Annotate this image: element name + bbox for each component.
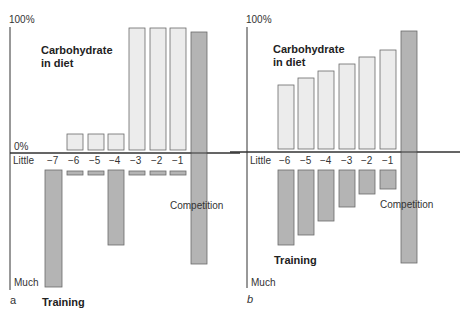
tick: −4 [320,155,332,166]
panel-a-carb-label-1: Carbohydrate [41,44,113,56]
carb-bar [170,28,186,150]
panel-b-letter: b [247,293,253,305]
carb-bar [88,134,104,150]
carb-bar [318,71,334,149]
training-bar [359,170,375,194]
panel-b-training-bars [278,170,396,245]
carb-bar [359,57,375,149]
tick: −2 [151,155,163,166]
panel-a-competition-label: Competition [170,200,223,211]
panel-a-letter: a [10,294,17,306]
training-bar [150,171,166,175]
carb-bar [339,64,355,149]
panel-b-carb-label-1: Carbohydrate [273,43,345,55]
training-bar [339,170,355,207]
carb-bar [298,78,314,149]
training-bar [278,170,294,245]
panel-a-label-100: 100% [9,14,35,25]
panel-b-label-100: 100% [246,14,272,25]
panel-a-label-much: Much [14,277,38,288]
tick: −5 [300,155,312,166]
panel-a-ticks: −7 −6 −5 −4 −3 −2 −1 [47,155,184,166]
panel-a: 100% 0% Little Much a Carbohydrate in di… [9,14,240,308]
training-bar [88,171,104,175]
panel-b-training-label: Training [274,254,317,266]
tick: −3 [341,155,353,166]
tick: −6 [68,155,80,166]
carb-bar [278,85,294,149]
carb-bar [129,28,145,150]
tick: −2 [361,155,373,166]
tick: −6 [279,155,291,166]
tick: −5 [89,155,101,166]
training-bar [129,171,145,175]
chart-figure: 100% 0% Little Much a Carbohydrate in di… [0,0,466,311]
panel-b: 100% Little Much b Carbohydrate in diet … [230,14,460,305]
panel-a-label-0: 0% [14,141,29,152]
panel-b-label-little: Little [250,155,272,166]
panel-a-carb-label-2: in diet [41,57,74,69]
carb-bar [108,134,124,150]
panel-a-competition-bar [191,32,207,264]
panel-a-training-label: Training [42,296,85,308]
training-bar [67,171,83,175]
tick: −1 [382,155,394,166]
tick: −4 [109,155,121,166]
training-bar [318,170,334,221]
panel-a-label-little: Little [13,155,35,166]
carb-bar [380,50,396,149]
panel-b-competition-bar [401,31,417,263]
tick: −3 [130,155,142,166]
training-bar [45,170,62,287]
panel-b-carb-label-2: in diet [273,56,306,68]
panel-a-training-bars [45,170,186,287]
training-bar [298,170,314,235]
training-bar [108,170,124,245]
training-bar [380,170,396,189]
tick: −7 [47,155,59,166]
panel-b-competition-label: Competition [380,199,433,210]
panel-b-label-much: Much [251,277,275,288]
panel-b-ticks: −6 −5 −4 −3 −2 −1 [279,155,394,166]
carb-bar [150,28,166,150]
carb-bar [67,134,83,150]
tick: −1 [172,155,184,166]
training-bar [170,171,186,175]
